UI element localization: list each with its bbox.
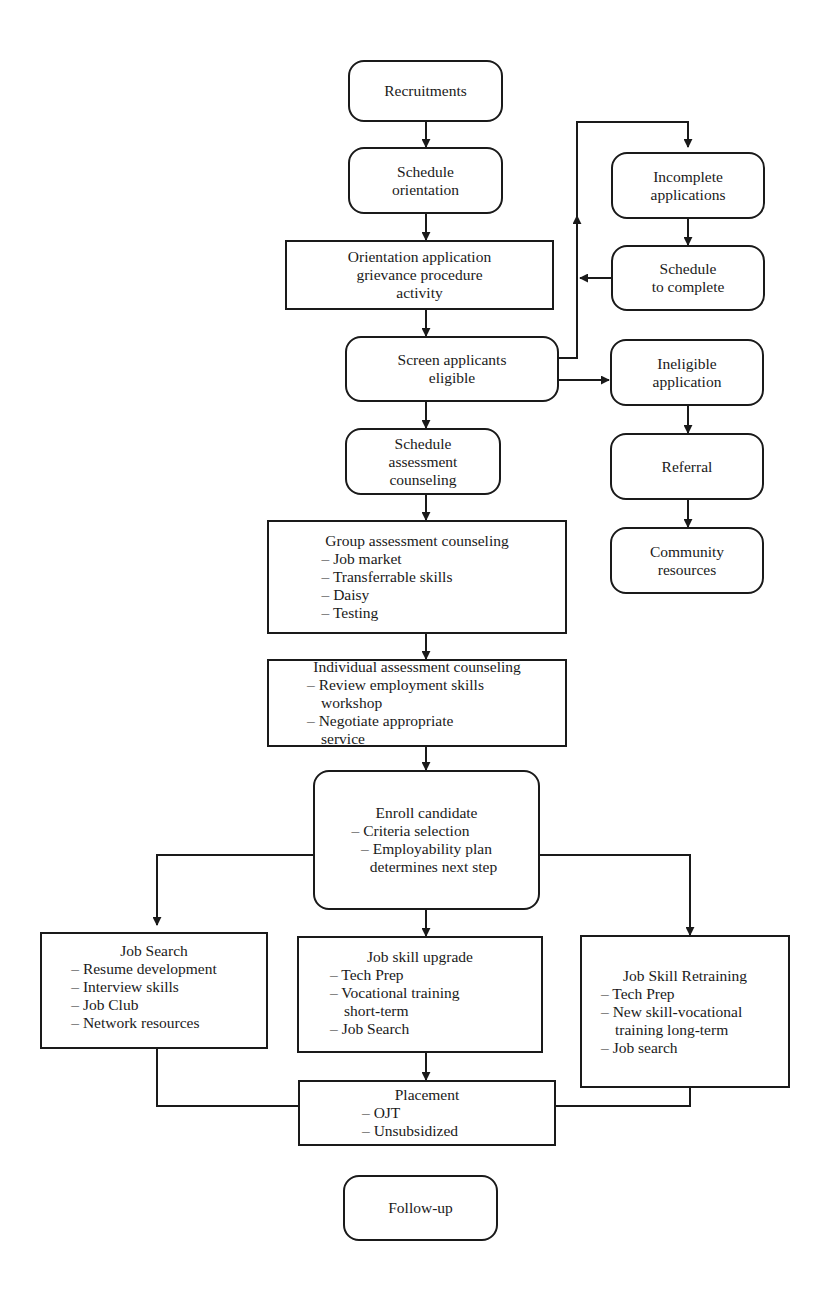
node-schedule-orientation: Schedule orientation (348, 147, 503, 214)
node-screen-applicants: Screen applicants eligible (345, 336, 559, 402)
node-incomplete-applications: Incomplete applications (611, 152, 765, 219)
list-item: Criteria selection (352, 822, 502, 840)
node-recruitments: Recruitments (348, 60, 503, 122)
node-title: Recruitments (384, 82, 467, 100)
node-line: Schedule (397, 163, 454, 181)
list-item: Transferrable skills (322, 568, 453, 586)
list-item: OJT (362, 1104, 472, 1122)
node-schedule-to-complete: Schedule to complete (611, 245, 765, 311)
node-line: activity (396, 284, 443, 302)
item-list: Tech Prep New skill-vocational training … (601, 985, 769, 1057)
list-item: Job Search (330, 1020, 490, 1038)
item-list: Review employment skills workshop Negoti… (307, 676, 487, 748)
item-list: Job market Transferrable skills Daisy Te… (322, 550, 453, 622)
node-ineligible-application: Ineligible application (610, 339, 764, 406)
node-title: Enroll candidate (376, 804, 478, 822)
list-item: Daisy (322, 586, 453, 604)
node-line: Schedule (660, 260, 717, 278)
node-title: Referral (662, 458, 713, 476)
node-line: application (653, 373, 722, 391)
list-item: Job search (601, 1039, 769, 1057)
node-line: counseling (389, 471, 456, 489)
node-title: Job Skill Retraining (623, 967, 747, 985)
list-item: Testing (322, 604, 453, 622)
flowchart-canvas: Recruitments Schedule orientation Orient… (0, 0, 832, 1316)
list-item: Resume development (71, 960, 217, 978)
node-line: Schedule (395, 435, 452, 453)
node-line: to complete (652, 278, 725, 296)
node-title: Placement (395, 1086, 460, 1104)
item-list: OJT Unsubsidized (362, 1104, 472, 1140)
node-enroll-candidate: Enroll candidate Criteria selection Empl… (313, 770, 540, 910)
node-title: Job Search (120, 942, 188, 960)
node-line: grievance procedure (356, 266, 482, 284)
node-follow-up: Follow-up (343, 1175, 498, 1241)
list-item: Unsubsidized (362, 1122, 472, 1140)
node-title: Follow-up (388, 1199, 453, 1217)
list-item: Employability plan determines next step (352, 840, 502, 876)
list-item: Tech Prep (330, 966, 490, 984)
list-item: Job Club (71, 996, 217, 1014)
node-group-assessment: Group assessment counseling Job market T… (267, 520, 567, 634)
list-item: Interview skills (71, 978, 217, 996)
node-job-skill-upgrade: Job skill upgrade Tech Prep Vocational t… (297, 936, 543, 1053)
node-individual-assessment: Individual assessment counseling Review … (267, 659, 567, 747)
node-line: applications (651, 186, 726, 204)
node-line: Orientation application (348, 248, 491, 266)
list-item: New skill-vocational training long-term (601, 1003, 769, 1039)
node-line: Screen applicants (398, 351, 507, 369)
node-orientation-application: Orientation application grievance proced… (285, 240, 554, 310)
node-line: Incomplete (653, 168, 723, 186)
item-list: Tech Prep Vocational training short-term… (330, 966, 490, 1038)
node-schedule-assessment: Schedule assessment counseling (345, 428, 501, 495)
node-title: Individual assessment counseling (313, 658, 521, 676)
node-title: Job skill upgrade (367, 948, 473, 966)
list-item: Vocational training short-term (330, 984, 490, 1020)
node-line: Community (650, 543, 724, 561)
list-item: Tech Prep (601, 985, 769, 1003)
node-job-skill-retraining: Job Skill Retraining Tech Prep New skill… (580, 935, 790, 1088)
list-item: Job market (322, 550, 453, 568)
node-line: Ineligible (657, 355, 716, 373)
item-list: Resume development Interview skills Job … (71, 960, 217, 1032)
node-job-search: Job Search Resume development Interview … (40, 932, 268, 1049)
node-title: Group assessment counseling (325, 532, 508, 550)
list-item: Review employment skills workshop (307, 676, 487, 712)
item-list: Criteria selection Employability plan de… (352, 822, 502, 876)
list-item: Network resources (71, 1014, 217, 1032)
node-placement: Placement OJT Unsubsidized (298, 1080, 556, 1146)
node-line: assessment (389, 453, 458, 471)
list-item: Negotiate appropriate service (307, 712, 487, 748)
node-community-resources: Community resources (610, 527, 764, 594)
node-referral: Referral (610, 433, 764, 500)
node-line: resources (658, 561, 717, 579)
node-line: eligible (429, 369, 476, 387)
node-line: orientation (392, 181, 459, 199)
